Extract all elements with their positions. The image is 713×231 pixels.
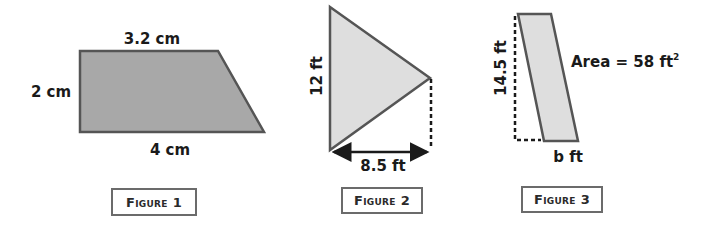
height-label: 14.5 ft [492, 40, 510, 96]
trapezoid-shape [80, 51, 264, 132]
triangle-shape [330, 7, 430, 150]
figure-1: 3.2 cm 2 cm 4 cm [31, 30, 264, 159]
figure-3: 14.5 ft Area = 58 ft2 b ft [492, 14, 679, 166]
bottom-side-label: 4 cm [150, 141, 190, 159]
base-label: b ft [553, 148, 583, 166]
area-label: Area = 58 ft2 [571, 52, 679, 71]
figure-2-caption: Figure 2 [341, 187, 423, 214]
height-label: 8.5 ft [360, 157, 406, 175]
figure-2: 12 ft 8.5 ft [308, 7, 431, 175]
figure-1-caption: Figure 1 [111, 188, 197, 216]
base-label: 12 ft [308, 56, 326, 96]
parallelogram-shape [518, 14, 578, 141]
top-side-label: 3.2 cm [124, 30, 180, 48]
figure-3-caption: Figure 3 [521, 186, 603, 213]
left-side-label: 2 cm [31, 83, 71, 101]
